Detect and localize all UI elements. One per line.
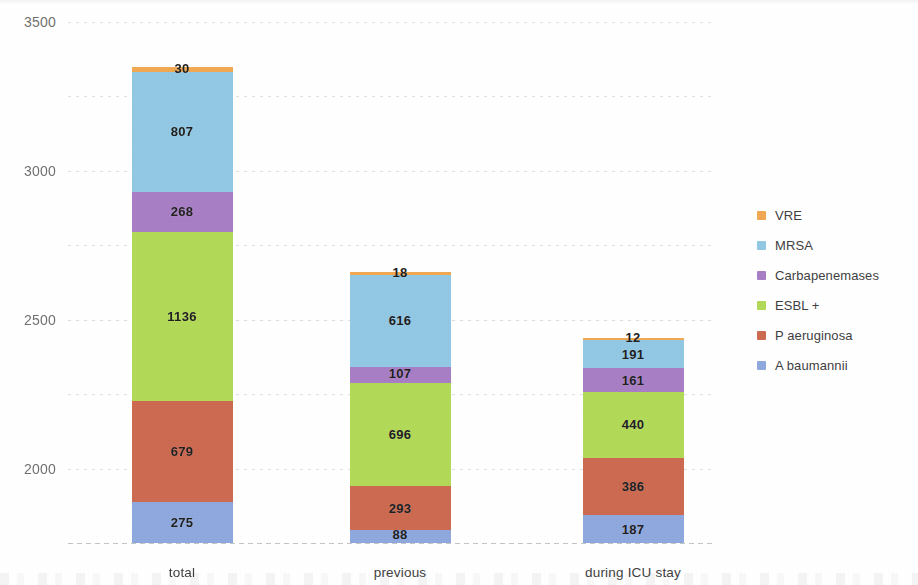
bar-segment-value: 161 bbox=[622, 374, 645, 387]
bar-segment-value: 18 bbox=[392, 266, 407, 279]
legend-item-mrsa[interactable]: MRSA bbox=[757, 230, 912, 260]
bar-segment[interactable]: 807 bbox=[132, 72, 233, 192]
gridline-0: 0 bbox=[68, 543, 714, 544]
y-axis-tick-label: 3000 bbox=[24, 163, 56, 179]
legend-label: A baumannii bbox=[775, 358, 848, 373]
legend-item-p-aeruginosa[interactable]: P aeruginosa bbox=[757, 320, 912, 350]
legend-swatch-icon bbox=[757, 271, 766, 280]
bar-segment-value: 696 bbox=[389, 428, 412, 441]
bar-segment-value: 107 bbox=[389, 367, 412, 380]
bar-segment-value: 807 bbox=[171, 125, 194, 138]
bar-segment[interactable]: 696 bbox=[350, 383, 451, 487]
bar-segment[interactable]: 268 bbox=[132, 192, 233, 232]
bar-segment-value: 440 bbox=[622, 418, 645, 431]
bar-segment-value: 293 bbox=[389, 502, 412, 515]
bar-segment[interactable]: 88 bbox=[350, 530, 451, 543]
y-axis-tick-label: 2500 bbox=[24, 312, 56, 328]
bar-segment[interactable]: 386 bbox=[583, 458, 684, 515]
legend-label: ESBL + bbox=[775, 298, 820, 313]
plot-area: 0500100015002000250030003500 27567911362… bbox=[68, 22, 714, 543]
bar-segment-value: 616 bbox=[389, 314, 412, 327]
y-axis-tick-label: 2000 bbox=[24, 461, 56, 477]
legend-label: P aeruginosa bbox=[775, 328, 853, 343]
bar-segment-value: 386 bbox=[622, 480, 645, 493]
legend-swatch-icon bbox=[757, 331, 766, 340]
bar-segment[interactable]: 293 bbox=[350, 486, 451, 530]
bar-segment[interactable]: 275 bbox=[132, 502, 233, 543]
bar-segment-value: 275 bbox=[171, 516, 194, 529]
bar-during-icu-stay[interactable]: 18738644016119112during ICU stay bbox=[583, 338, 684, 543]
gridline-3500: 3500 bbox=[68, 22, 714, 23]
bar-segment-value: 12 bbox=[625, 331, 640, 344]
chart-legend: VREMRSACarbapenemasesESBL +P aeruginosaA… bbox=[757, 200, 912, 380]
bar-segment[interactable]: 30 bbox=[132, 67, 233, 71]
bar-segment-value: 88 bbox=[392, 528, 407, 541]
legend-swatch-icon bbox=[757, 301, 766, 310]
x-axis-category-label: previous bbox=[374, 565, 427, 580]
legend-label: MRSA bbox=[775, 238, 813, 253]
bar-segment[interactable]: 616 bbox=[350, 275, 451, 367]
bar-segment[interactable]: 187 bbox=[583, 515, 684, 543]
bar-segment[interactable]: 679 bbox=[132, 401, 233, 502]
bar-segment[interactable]: 161 bbox=[583, 368, 684, 392]
bar-segment-value: 679 bbox=[171, 445, 194, 458]
legend-item-carbapenemases[interactable]: Carbapenemases bbox=[757, 260, 912, 290]
legend-swatch-icon bbox=[757, 361, 766, 370]
bar-total[interactable]: 275679113626880730total bbox=[132, 67, 233, 543]
legend-label: VRE bbox=[775, 208, 802, 223]
x-axis-category-label: during ICU stay bbox=[585, 565, 681, 580]
bar-segment-value: 1136 bbox=[167, 310, 196, 323]
legend-item-vre[interactable]: VRE bbox=[757, 200, 912, 230]
bar-segment-value: 268 bbox=[171, 205, 194, 218]
bar-segment[interactable]: 107 bbox=[350, 367, 451, 383]
legend-swatch-icon bbox=[757, 241, 766, 250]
bar-previous[interactable]: 8829369610761618previous bbox=[350, 272, 451, 543]
bar-segment[interactable]: 12 bbox=[583, 338, 684, 340]
bar-segment-value: 30 bbox=[174, 62, 189, 75]
bar-segment[interactable]: 18 bbox=[350, 272, 451, 275]
legend-label: Carbapenemases bbox=[775, 268, 879, 283]
legend-item-esbl-[interactable]: ESBL + bbox=[757, 290, 912, 320]
stacked-bar-chart: 0500100015002000250030003500 27567911362… bbox=[0, 0, 918, 585]
bar-segment[interactable]: 440 bbox=[583, 392, 684, 457]
x-axis-category-label: total bbox=[169, 565, 196, 580]
legend-swatch-icon bbox=[757, 211, 766, 220]
bar-segment-value: 191 bbox=[622, 348, 645, 361]
bar-segment[interactable]: 1136 bbox=[132, 232, 233, 401]
bar-segment-value: 187 bbox=[622, 523, 645, 536]
y-axis-tick-label: 3500 bbox=[24, 14, 56, 30]
legend-item-a-baumannii[interactable]: A baumannii bbox=[757, 350, 912, 380]
